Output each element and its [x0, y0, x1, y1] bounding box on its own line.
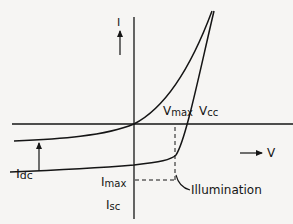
iv-diagram: I V Idc Vmax Vcc Imax Isc Illumination [0, 0, 293, 224]
isc-label: Isc [106, 198, 120, 212]
voc-label: Vcc [199, 104, 218, 118]
current-axis-label: I [117, 16, 120, 29]
imax-label: Imax [101, 175, 126, 189]
illumination-leader [176, 175, 190, 190]
vmax-label: Vmax [163, 104, 193, 118]
voltage-axis-label: V [267, 146, 276, 160]
illuminated-curve [10, 11, 214, 172]
illumination-label: Illumination [191, 183, 262, 197]
idc-label: Idc [16, 166, 33, 182]
dark-curve [14, 11, 212, 141]
